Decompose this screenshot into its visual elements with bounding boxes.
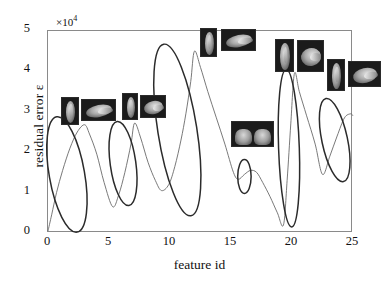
- y-axis-label: residual error ε: [31, 41, 47, 211]
- thumb-5b-image: [297, 40, 324, 72]
- thumb-6b-image: [348, 61, 381, 87]
- thumb-1b-image: [81, 99, 116, 121]
- thumb-2b-image: [140, 95, 166, 118]
- y-axis-exponent: ×104: [56, 14, 77, 28]
- thumb-6a-image: [327, 59, 345, 91]
- figure-root: ×104 residual error ε feature id 543210 …: [0, 0, 385, 281]
- y-tick-label-4: 4: [0, 62, 30, 75]
- residual-error-curve: [48, 51, 353, 231]
- highlight-ellipse-peak-1: [39, 114, 94, 236]
- highlight-ellipse-valley-4: [238, 159, 251, 193]
- thumb-1a-image: [61, 97, 79, 125]
- x-tick-label-0: 0: [32, 235, 62, 248]
- thumb-2a-image: [122, 93, 138, 120]
- y-tick-label-1: 1: [0, 184, 30, 197]
- y-tick-label-5: 5: [0, 22, 30, 35]
- x-tick-label-25: 25: [337, 235, 367, 248]
- x-axis-label: feature id: [47, 257, 352, 273]
- y-tick-label-2: 2: [0, 143, 30, 156]
- highlight-ellipse-peak-6: [313, 96, 356, 184]
- x-tick-label-20: 20: [276, 235, 306, 248]
- y-tick-label-0: 0: [0, 224, 30, 237]
- x-tick-label-10: 10: [154, 235, 184, 248]
- thumb-5a-image: [275, 39, 294, 72]
- thumb-3a-image: [200, 28, 217, 57]
- y-tick-label-3: 3: [0, 103, 30, 116]
- highlight-ellipse-peak-2: [104, 120, 141, 208]
- x-tick-label-15: 15: [215, 235, 245, 248]
- x-tick-label-5: 5: [93, 235, 123, 248]
- thumb-3b-image: [221, 29, 256, 51]
- thumb-4-image: [231, 121, 274, 147]
